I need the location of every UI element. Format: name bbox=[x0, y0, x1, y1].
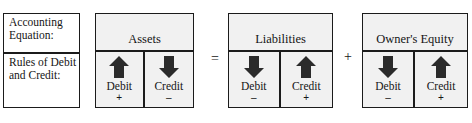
equals-operator: = bbox=[207, 52, 223, 66]
debit-credit-row: Debit – Credit + bbox=[229, 52, 332, 107]
legend-box: Accounting Equation: Rules of Debit and … bbox=[3, 13, 80, 108]
debit-sign: – bbox=[385, 93, 391, 103]
debit-sign: – bbox=[251, 93, 257, 103]
account-box-owners-equity: Owner's Equity Debit – Credit + bbox=[362, 13, 468, 108]
credit-label: Credit bbox=[292, 80, 321, 92]
debit-credit-row: Debit – Credit + bbox=[363, 52, 467, 107]
account-title: Assets bbox=[128, 32, 161, 47]
down-arrow-icon bbox=[377, 55, 399, 79]
credit-label: Credit bbox=[154, 80, 183, 92]
up-arrow-icon bbox=[108, 55, 130, 79]
credit-sign: + bbox=[438, 93, 444, 103]
account-title: Owner's Equity bbox=[376, 32, 454, 47]
rules-of-debit-and-credit-label: Rules of Debit and Credit: bbox=[4, 54, 79, 106]
up-arrow-icon bbox=[295, 55, 317, 79]
debit-cell-assets: Debit + bbox=[96, 52, 145, 107]
credit-cell-assets: Credit – bbox=[145, 52, 194, 107]
credit-cell-owners-equity: Credit + bbox=[415, 52, 467, 107]
accounting-equation-diagram: Accounting Equation: Rules of Debit and … bbox=[0, 0, 472, 123]
debit-cell-owners-equity: Debit – bbox=[363, 52, 415, 107]
credit-cell-liabilities: Credit + bbox=[281, 52, 333, 107]
account-title: Liabilities bbox=[255, 32, 306, 47]
account-header-assets: Assets bbox=[96, 14, 193, 52]
account-box-assets: Assets Debit + Credit – bbox=[95, 13, 194, 108]
accounting-equation-label: Accounting Equation: bbox=[4, 14, 79, 54]
debit-cell-liabilities: Debit – bbox=[229, 52, 281, 107]
plus-operator: + bbox=[340, 50, 356, 64]
debit-sign: + bbox=[116, 93, 122, 103]
up-arrow-icon bbox=[430, 55, 452, 79]
debit-label: Debit bbox=[106, 80, 132, 92]
credit-sign: + bbox=[303, 93, 309, 103]
account-header-liabilities: Liabilities bbox=[229, 14, 332, 52]
debit-label: Debit bbox=[375, 80, 401, 92]
debit-label: Debit bbox=[241, 80, 267, 92]
down-arrow-icon bbox=[243, 55, 265, 79]
credit-sign: – bbox=[166, 93, 172, 103]
account-box-liabilities: Liabilities Debit – Credit + bbox=[228, 13, 333, 108]
account-header-owners-equity: Owner's Equity bbox=[363, 14, 467, 52]
credit-label: Credit bbox=[427, 80, 456, 92]
down-arrow-icon bbox=[158, 55, 180, 79]
debit-credit-row: Debit + Credit – bbox=[96, 52, 193, 107]
